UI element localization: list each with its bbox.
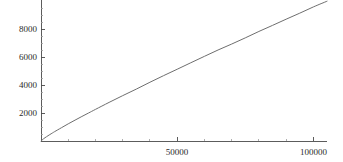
plot-canvas xyxy=(0,0,343,162)
data-series-line xyxy=(41,1,327,141)
ticks-layer xyxy=(41,8,313,141)
y-axis-tick-label: 2000 xyxy=(19,108,37,118)
y-axis-tick-label: 6000 xyxy=(19,52,37,62)
axes-layer xyxy=(41,0,327,142)
y-axis-tick-label: 8000 xyxy=(19,24,37,34)
data-series-layer xyxy=(41,1,327,141)
x-axis-tick-label: 100000 xyxy=(300,147,327,157)
plot-figure: 200040006000800050000100000 xyxy=(0,0,343,162)
y-axis-tick-label: 4000 xyxy=(19,80,37,90)
x-axis-tick-label: 50000 xyxy=(166,147,189,157)
